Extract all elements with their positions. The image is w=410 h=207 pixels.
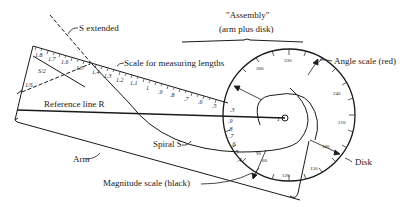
magnitude-scale-labels: 1 .9 .8 .7 .6 .5 .4 .3 [228,107,280,163]
diagram: 1.8 1.7 1.6 1.5 1.4 1.3 1.2 1.1 1 .9 .8 … [0,0,410,207]
angle-label: 330 [284,58,292,63]
angle-label: 210 [338,120,346,125]
angle-label: 60 [262,158,268,163]
one-over-s-label: 1/S [25,82,33,88]
disk-label: Disk [355,157,373,167]
tick-label: .6 [198,99,203,105]
tick-label: .9 [158,89,163,95]
s-over-2-label: S/2 [38,68,46,74]
tick-label: 1.2 [116,77,124,83]
angle-label: 150 [310,166,318,171]
s-extended-label: S extended [79,23,119,33]
arm-label: Arm [73,154,90,164]
disk: 330 300 240 210 180 150 120 90 60 1 .9 .… [223,49,355,181]
angle-label: 90 [256,151,262,156]
tick-label: 1.8 [35,52,43,58]
assembly-bracket: "Assembly" (arm plus disk) [182,10,303,42]
spiral-s: Spiral S [130,88,308,152]
magnitude-label: .3 [230,107,235,113]
angle-scale-ticks [225,49,355,181]
assembly-label-line1: "Assembly" [226,10,270,20]
tick-label: .5 [212,103,217,109]
tick-label: 1.7 [48,56,57,62]
tick-label: 1.4 [92,69,100,75]
angle-scale-label: Angle scale (red) [334,56,396,66]
assembly-label-line2: (arm plus disk) [219,24,274,34]
reference-line-r: Reference line R [17,99,285,118]
magnitude-label: .8 [228,126,233,132]
magnitude-label: .6 [231,141,236,147]
magnitude-label: .7 [229,133,235,139]
spiral-s-label: Spiral S [153,139,182,149]
magnitude-label: .9 [228,118,233,124]
magnitude-label: 1 [277,116,280,122]
tick-label: .7 [184,96,190,102]
tick-label: 1.6 [61,59,69,65]
construction-lines: S/2 1/S [22,56,90,92]
tick-label: 1.1 [130,80,138,86]
tick-label: 1 [146,85,149,91]
arrow-pointers [234,59,340,179]
angle-label: 120 [282,173,290,178]
reference-line-label: Reference line R [44,99,104,109]
tick-label: .8 [170,92,175,98]
magnitude-scale-label: Magnitude scale (black) [103,178,190,188]
magnitude-label: .4 [237,157,242,163]
magnitude-label: .5 [234,149,239,155]
angle-label: 240 [333,91,341,96]
scale-for-lengths-label: Scale for measuring lengths [124,58,225,68]
angle-label: 300 [256,66,264,71]
